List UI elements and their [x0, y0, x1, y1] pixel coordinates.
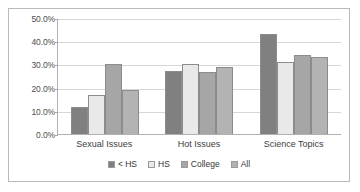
bar-group [58, 19, 152, 134]
bar-group [152, 19, 246, 134]
bar[interactable] [165, 71, 182, 134]
x-category-label: Science Topics [246, 139, 341, 149]
bar[interactable] [294, 55, 311, 134]
y-tick-label: 40.0% [31, 37, 55, 47]
bar-groups [58, 19, 341, 134]
bar[interactable] [71, 107, 88, 134]
chart-frame: 0.0%10.0%20.0%30.0%40.0%50.0% Sexual Iss… [8, 8, 350, 182]
legend-label: HS [158, 159, 170, 169]
bar[interactable] [88, 95, 105, 134]
legend-swatch-icon [108, 161, 115, 168]
bar[interactable] [182, 64, 199, 134]
y-tickmark [54, 135, 58, 136]
bar[interactable] [216, 67, 233, 135]
legend-swatch-icon [181, 161, 188, 168]
bar[interactable] [311, 57, 328, 134]
y-tick-label: 10.0% [31, 107, 55, 117]
y-tick-label: 50.0% [31, 14, 55, 24]
legend-swatch-icon [148, 161, 155, 168]
y-tick-label: 20.0% [31, 84, 55, 94]
bar[interactable] [277, 62, 294, 134]
y-tick-label: 0.0% [36, 130, 55, 140]
legend-entry[interactable]: HS [148, 159, 170, 169]
x-category-label: Sexual Issues [57, 139, 152, 149]
y-axis: 0.0%10.0%20.0%30.0%40.0%50.0% [13, 19, 55, 135]
legend-entry[interactable]: < HS [108, 159, 137, 169]
bar[interactable] [199, 72, 216, 134]
plot-area [57, 19, 341, 135]
bar[interactable] [122, 90, 139, 134]
bar-group [247, 19, 341, 134]
chart-legend: < HSHSCollegeAll [9, 159, 349, 169]
x-category-label: Hot Issues [152, 139, 247, 149]
y-tick-label: 30.0% [31, 60, 55, 70]
chart-plot-wrapper: 0.0%10.0%20.0%30.0%40.0%50.0% Sexual Iss… [9, 9, 349, 181]
legend-label: All [241, 159, 250, 169]
legend-entry[interactable]: All [231, 159, 250, 169]
bar[interactable] [260, 34, 277, 134]
legend-label: College [191, 159, 220, 169]
legend-label: < HS [118, 159, 137, 169]
legend-swatch-icon [231, 161, 238, 168]
x-axis: Sexual IssuesHot IssuesScience Topics [57, 139, 341, 149]
legend-entry[interactable]: College [181, 159, 220, 169]
bar[interactable] [105, 64, 122, 134]
